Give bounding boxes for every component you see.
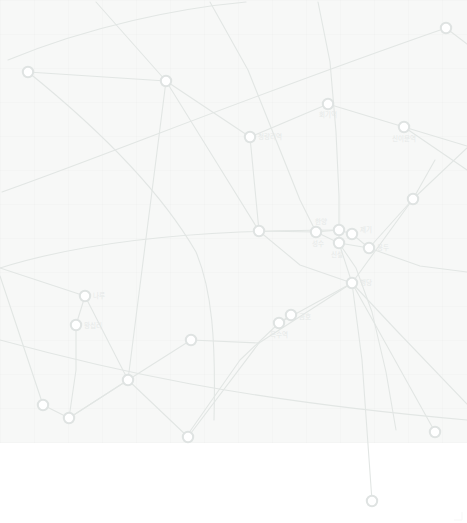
station-node[interactable] [347,229,357,239]
station-node[interactable] [254,226,264,236]
station-node[interactable] [430,427,440,437]
station-node[interactable] [38,400,48,410]
station-node[interactable] [323,99,333,109]
station-node[interactable] [161,76,171,86]
transit-line [0,230,339,268]
station-label: 옥수역 [270,330,288,339]
station-node[interactable] [311,227,321,237]
station-node[interactable] [245,132,255,142]
station-label: 행당 [360,278,372,287]
station-node[interactable] [367,496,377,506]
station-node[interactable] [80,291,90,301]
corner-marker-icon [453,511,463,521]
station-node[interactable] [71,320,81,330]
station-node[interactable] [64,413,74,423]
station-node[interactable] [334,225,344,235]
station-node[interactable] [186,335,196,345]
station-node[interactable] [23,67,33,77]
station-label: 제기 [360,225,372,234]
station-node[interactable] [123,375,133,385]
station-node[interactable] [334,238,344,248]
transit-line [69,325,128,418]
station-label: 신이문역 [392,134,416,143]
station-label: 성수 [312,239,324,248]
transit-line [0,276,259,418]
transit-line [8,2,246,60]
station-node[interactable] [364,243,374,253]
station-node[interactable] [441,23,451,33]
transit-line [2,28,446,192]
station-node[interactable] [408,194,418,204]
transit-map-viewport[interactable]: 회기역청량리역신이문역한양제기신설용두나루왕십리성수행당금호옥수역 [0,0,467,523]
station-node[interactable] [183,432,193,442]
transit-line [210,2,396,430]
transit-line [0,148,467,437]
station-node[interactable] [347,278,357,288]
station-label: 왕십리 [84,321,102,330]
station-label: 신설 [331,250,343,259]
station-label: 청량리역 [258,132,282,141]
transit-line [128,81,166,380]
station-label: 용두 [377,244,389,252]
station-node[interactable] [274,318,284,328]
station-node[interactable] [286,310,296,320]
transit-line [404,127,467,170]
station-label: 나루 [93,291,105,300]
transit-lines-layer [0,2,467,501]
transit-map-canvas[interactable]: 회기역청량리역신이문역한양제기신설용두나루왕십리성수행당금호옥수역 [0,0,467,523]
station-labels-layer: 회기역청량리역신이문역한양제기신설용두나루왕십리성수행당금호옥수역 [84,110,416,339]
station-node[interactable] [399,122,409,132]
station-label: 한양 [315,218,327,226]
station-label: 회기역 [319,110,337,119]
station-label: 금호 [299,313,311,321]
transit-stations-layer[interactable] [23,23,451,506]
